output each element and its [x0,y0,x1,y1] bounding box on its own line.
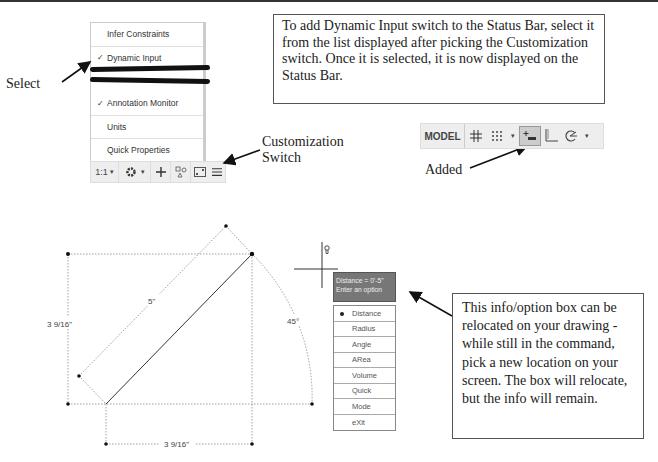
snap-dropdown[interactable]: ▾ [507,124,519,148]
dim-angle-text: 45° [287,317,299,326]
option-volume[interactable]: Volume [334,368,395,384]
dynamic-input-tooltip[interactable]: Distance = 0'-5" Enter an option [333,272,396,302]
option-label: Distance [352,309,381,318]
dim-vertical-text: 3 9/16" [47,320,72,329]
dynamic-input-button[interactable] [519,126,541,146]
callout-option-box: This info/option box can be relocated on… [452,293,644,439]
polar-dropdown[interactable]: ▾ [581,124,593,148]
callout-dynamic-input: To add Dynamic Input switch to the Statu… [273,14,605,104]
option-area[interactable]: ARea [334,353,395,369]
cad-drawing: 5" 3 9/16" 3 9/16" 45° [0,190,330,462]
option-label: Angle [352,340,371,349]
status-bar-large: MODEL ▾ ▾ [420,123,604,149]
option-exit[interactable]: eXit [334,415,395,431]
option-label: ARea [352,355,371,364]
drawn-line [106,254,252,404]
added-arrow [470,146,527,168]
option-mode[interactable]: Mode [334,399,395,415]
option-quick[interactable]: Quick [334,384,395,400]
option-label: Radius [352,324,375,333]
option-label: Quick [352,386,371,395]
dim-length-text: 5" [148,297,155,306]
option-box-arrow [410,292,452,316]
customization-arrow [224,150,260,163]
dim-horizontal-text: 3 9/16" [164,440,189,449]
tooltip-icon [325,246,329,254]
polar-tracking-button[interactable] [561,124,581,148]
polar-icon [564,129,578,143]
option-angle[interactable]: Angle [334,337,395,353]
grid-button[interactable] [465,124,487,148]
option-label: eXit [352,418,365,427]
option-radius[interactable]: Radius [334,322,395,338]
tooltip-prompt: Enter an option [336,285,393,294]
option-distance[interactable]: Distance [334,306,395,322]
model-space-button[interactable]: MODEL [421,124,465,148]
option-list: Distance Radius Angle ARea Volume Quick … [333,305,396,431]
option-label: Volume [352,371,377,380]
grid-icon [470,130,482,142]
dynamic-input-icon [523,130,537,142]
bullet-icon [340,312,344,316]
select-arrow [62,62,90,82]
snap-button[interactable] [487,124,507,148]
snap-dots-icon [491,130,503,142]
ortho-icon [544,129,558,143]
ortho-button[interactable] [541,124,561,148]
option-label: Mode [352,402,371,411]
tooltip-value: Distance = 0'-5" [336,276,393,285]
